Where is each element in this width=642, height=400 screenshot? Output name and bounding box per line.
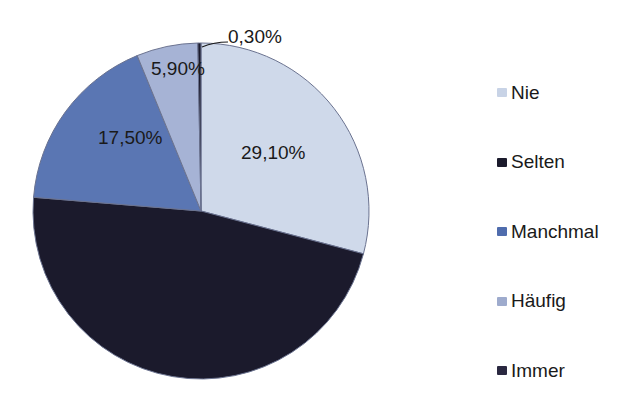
legend-swatch-icon [497, 297, 507, 306]
legend-swatch-icon [497, 366, 507, 375]
chart-legend: Nie Selten Manchmal Häufig Immer [497, 58, 599, 400]
slice-label-nie: 29,10% [241, 142, 305, 164]
legend-swatch-icon [497, 227, 507, 236]
legend-swatch-icon [497, 88, 507, 97]
slice-label-haeufig: 5,90% [151, 58, 205, 80]
legend-label: Selten [511, 151, 565, 173]
legend-item-selten: Selten [497, 128, 599, 198]
legend-swatch-icon [497, 158, 507, 167]
slice-label-manchmal: 17,50% [98, 127, 162, 149]
pie-slices [33, 43, 369, 379]
slice-label-immer: 0,30% [228, 26, 282, 48]
legend-item-nie: Nie [497, 58, 599, 128]
legend-label: Häufig [511, 290, 566, 312]
legend-label: Immer [511, 360, 565, 382]
legend-item-immer: Immer [497, 336, 599, 400]
legend-item-haeufig: Häufig [497, 267, 599, 337]
legend-label: Nie [511, 82, 540, 104]
legend-item-manchmal: Manchmal [497, 197, 599, 267]
legend-label: Manchmal [511, 221, 599, 243]
